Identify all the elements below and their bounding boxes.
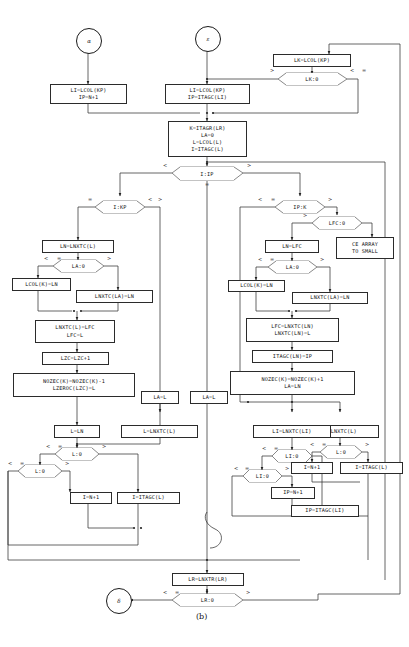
branch-op-li0a-eq: =	[274, 445, 278, 451]
decision-ip-k: IP:K	[283, 201, 317, 213]
box-line: LCOL(K)=LN	[240, 282, 273, 289]
branch-op-lk0-left: >	[270, 67, 274, 73]
box-line: LA=0	[201, 132, 214, 139]
box-line: LNXTC(L)=LFC	[55, 324, 94, 331]
branch-op-iip-bottom: =	[205, 181, 209, 187]
branch-op-l0b-right: >	[65, 460, 69, 466]
process-lnxtc-l-lfc: LNXTC(L)=LFC LFC=L	[35, 320, 115, 343]
process-ln-lfc: LN=LFC	[265, 240, 319, 253]
decision-label: LA:0	[286, 264, 299, 270]
decision-la0-left: LA:0	[61, 260, 96, 272]
process-lnxtc-la-ln-left: LNXTC(LA)=LN	[76, 290, 153, 303]
process-ce-array-to-small: CE ARRAY TO SMALL	[336, 237, 394, 259]
box-line: IP=N+1	[283, 489, 303, 496]
process-li-lnxtc-li: LI=LNXTC(LI)	[253, 425, 331, 438]
decision-lfc0: LFC:0	[319, 217, 355, 229]
branch-op-li0a-left: <	[262, 445, 266, 451]
decision-label: LI:0	[256, 473, 269, 479]
branch-op-la0r-eq: =	[270, 256, 274, 262]
flowchart-canvas: α ε δ LK=LCOL(KP) LI=LCOL(KP) IP=N+1 LI=…	[0, 0, 409, 647]
branch-op-ikp-left: =	[88, 196, 92, 202]
process-nozec-minus: NOZEC(K)=NOZEC(K)-1 LZEROC(LZC)=L	[13, 373, 135, 397]
branch-op-l0r-right: >	[365, 441, 369, 447]
box-line: I=N+1	[83, 494, 99, 501]
branch-op-l0a-eq: =	[58, 443, 62, 449]
branch-op-la0l-left: <	[44, 255, 48, 261]
branch-op-l0b-left: <	[8, 460, 12, 466]
process-nozec-plus: NOZEC(K)=NOZEC(K)+1 LA=LN	[230, 371, 355, 395]
process-la-l-mid: LA=L	[190, 391, 228, 404]
branch-op-la0l-right: >	[107, 255, 111, 261]
process-l-ln: L=LN	[54, 425, 100, 438]
box-line: L=LN	[70, 428, 83, 435]
box-line: LA=L	[202, 394, 215, 401]
branch-op-ipk-right: >	[328, 196, 332, 202]
process-l-lnxtc-mid: L=LNXTC(L)	[121, 425, 198, 438]
branch-op-l0a-right: >	[102, 443, 106, 449]
process-itagc-ln-ip: ITAGC(LN)=IP	[252, 350, 333, 363]
decision-label: L:0	[35, 468, 45, 474]
box-line: NOZEC(K)=NOZEC(K)-1	[43, 378, 105, 385]
box-line: IP=ITAGC(LI)	[305, 507, 344, 514]
box-line: LFC=L	[67, 332, 83, 339]
box-line: LZC=LZC+1	[61, 355, 90, 362]
branch-op-lk0-right-a: <	[350, 67, 354, 73]
decision-label: L:0	[72, 451, 82, 457]
figure-caption: (b)	[196, 612, 207, 621]
process-lzc: LZC=LZC+1	[42, 352, 109, 365]
branch-op-lk0-right-b: =	[362, 67, 366, 73]
process-lnxtc-la-ln-right: LNXTC(LA)=LN	[292, 292, 368, 304]
decision-label: L:0	[336, 449, 346, 455]
terminal-alpha-label: α	[87, 38, 91, 44]
branch-op-la0r-left: <	[258, 256, 262, 262]
box-line: ITAGC(LN)=IP	[273, 353, 312, 360]
box-line: LNXTC(LA)=LN	[310, 294, 349, 301]
box-line: L=LNXTC(L)	[143, 428, 176, 435]
branch-op-ipk-eq: =	[271, 196, 275, 202]
decision-l0-right: L:0	[327, 446, 355, 458]
box-line: IP=ITAGC(LI)	[188, 94, 227, 101]
branch-op-la0r-right: >	[320, 256, 324, 262]
branch-op-lr0-eq: =	[175, 589, 179, 595]
box-line: NOZEC(K)=NOZEC(K)+1	[261, 376, 323, 383]
terminal-alpha: α	[76, 28, 102, 54]
box-line: I=ITAGC(L)	[355, 464, 388, 471]
process-li-lcol-np1: LI=LCOL(KP) IP=N+1	[50, 84, 127, 104]
box-line: LN=LFC	[282, 243, 302, 250]
decision-lr0: LR:0	[180, 594, 235, 606]
process-li-lcol-itagc: LI=LCOL(KP) IP=ITAGC(LI)	[165, 84, 250, 104]
box-line: LA=LN	[284, 383, 300, 390]
terminal-epsilon: ε	[195, 26, 221, 52]
box-line: LI=LCOL(KP)	[189, 87, 225, 94]
process-i-np1-right: I=N+1	[291, 462, 333, 474]
branch-op-ikp-right-a: <	[148, 196, 152, 202]
box-line: LN=LNXTC(L)	[60, 243, 96, 250]
box-line: I=ITAGC(L)	[191, 146, 224, 153]
decision-i-ip: I:IP	[180, 167, 234, 180]
process-i-itagc-left: I=ITAGC(L)	[117, 492, 180, 504]
terminal-delta: δ	[106, 588, 132, 614]
branch-op-ikp-right-b: >	[158, 196, 162, 202]
box-line: LK=LCOL(KP)	[294, 57, 330, 64]
process-k-itagr: K=ITAGR(LR) LA=0 L=LCOL(L) I=ITAGC(L)	[168, 121, 247, 157]
box-line: IP=N+1	[79, 94, 99, 101]
decision-i-kp: I:KP	[103, 201, 137, 213]
decision-label: I:KP	[113, 204, 126, 210]
box-line: I=N+1	[304, 464, 320, 471]
process-lfc-lnxtc-ln: LFC=LNXTC(LN) LNXTC(LN)=L	[246, 318, 339, 342]
box-line: LCOL(K)=LN	[25, 281, 58, 288]
branch-op-l0b-eq: =	[20, 460, 24, 466]
branch-op-la0l-eq: =	[57, 255, 61, 261]
flowchart-nodes: α ε δ LK=LCOL(KP) LI=LCOL(KP) IP=N+1 LI=…	[0, 0, 409, 647]
box-line: LA=L	[153, 394, 166, 401]
process-ip-itagc-li: IP=ITAGC(LI)	[291, 505, 359, 517]
terminal-epsilon-label: ε	[207, 36, 210, 42]
decision-la0-right: LA:0	[276, 261, 309, 273]
box-line: TO SMALL	[352, 248, 378, 255]
box-line: CE ARRAY	[352, 241, 378, 248]
decision-li0-a: LI:0	[278, 450, 306, 462]
box-line: LI=LNXTC(LI)	[272, 428, 311, 435]
decision-l0-b: L:0	[25, 465, 55, 477]
decision-label: I:IP	[200, 171, 213, 177]
box-line: LNXTC(LA)=LN	[95, 293, 134, 300]
